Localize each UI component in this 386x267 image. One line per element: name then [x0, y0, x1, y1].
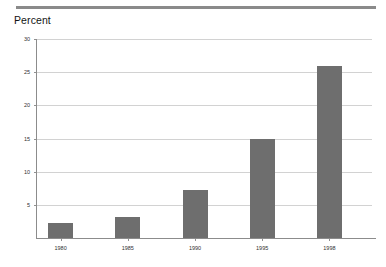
y-axis-tick-label: 30	[24, 36, 30, 42]
y-axis-tick-label: 15	[24, 136, 30, 142]
x-axis-tick-mark	[61, 239, 62, 241]
chart-figure: Percent 51015202530 19801985199019951998	[0, 0, 386, 267]
y-axis-tick-labels: 51015202530	[0, 39, 34, 238]
bar-series	[36, 39, 372, 238]
x-axis-tick-label: 1998	[323, 245, 335, 252]
bar	[48, 223, 73, 238]
y-axis-tick-label: 25	[24, 69, 30, 75]
x-axis-tick-label: 1995	[256, 245, 268, 252]
y-axis-tick-label: 10	[24, 169, 30, 175]
header-rule	[16, 6, 376, 9]
x-axis-line	[36, 238, 376, 239]
bar	[250, 139, 275, 239]
x-axis-tick-label: 1985	[122, 245, 134, 252]
y-axis-tick-label: 20	[24, 102, 30, 108]
y-axis-title: Percent	[14, 14, 51, 27]
bar	[317, 66, 342, 238]
x-axis-tick-mark	[195, 239, 196, 241]
bar	[183, 190, 208, 238]
x-axis-tick-labels: 19801985199019951998	[36, 241, 372, 257]
x-axis-tick-label: 1980	[54, 245, 66, 252]
x-axis-tick-mark	[128, 239, 129, 241]
bar	[115, 217, 140, 238]
x-axis-tick-mark	[329, 239, 330, 241]
x-axis-tick-label: 1990	[189, 245, 201, 252]
x-axis-tick-mark	[262, 239, 263, 241]
y-axis-tick-label: 5	[27, 202, 30, 208]
